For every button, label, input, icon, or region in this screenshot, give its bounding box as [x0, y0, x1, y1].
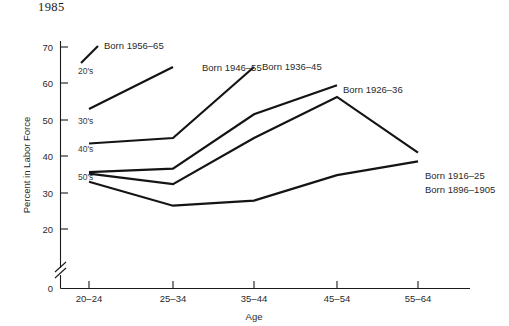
- x-axis-title: Age: [246, 311, 263, 322]
- y-tick-label: 50: [42, 115, 53, 126]
- series-line-2: [89, 67, 173, 109]
- series-label: Born 1936–45: [262, 61, 322, 72]
- series-label: Born 1916–25: [425, 170, 485, 181]
- series-label: Born 1956–65: [104, 40, 164, 51]
- y-axis-title: Percent in Labor Force: [21, 117, 32, 214]
- series-line-6: [89, 161, 418, 205]
- y-tick-label: 0: [48, 283, 53, 294]
- y-tick-label: 30: [42, 188, 53, 199]
- y-axis-ticks: [61, 47, 69, 229]
- decade-annotation: 40's: [78, 144, 93, 154]
- x-tick-label: 25–34: [160, 293, 186, 304]
- y-tick-label: 60: [42, 78, 53, 89]
- series-label: Born 1946–55: [202, 62, 262, 73]
- chart-figure: 1985 70 60 50 40 30 20 0: [0, 0, 509, 326]
- series-label: Born 1896–1905: [425, 184, 495, 195]
- y-axis-tick-labels: 70 60 50 40 30 20 0: [42, 42, 53, 295]
- x-tick-label: 55–64: [405, 293, 431, 304]
- y-tick-label: 40: [42, 151, 53, 162]
- series-label: Born 1926–36: [343, 84, 403, 95]
- x-tick-label: 20–24: [76, 293, 102, 304]
- y-tick-label: 20: [42, 224, 53, 235]
- x-axis-tick-labels: 20–24 25–34 35–44 45–54 55–64: [76, 293, 431, 304]
- y-tick-label: 70: [42, 42, 53, 53]
- series-line-1: [81, 46, 98, 63]
- series-line-4: [89, 85, 337, 172]
- series-label-group: Born 1956–65Born 1946–55Born 1936–45Born…: [104, 40, 495, 195]
- x-axis-ticks: [89, 281, 418, 289]
- x-tick-label: 45–54: [324, 293, 350, 304]
- decade-annotation: 20's: [78, 66, 93, 76]
- decade-annotation: 30's: [78, 116, 93, 126]
- x-tick-label: 35–44: [241, 293, 267, 304]
- line-chart-canvas: 70 60 50 40 30 20 0 20–24 25–34 35–44 45…: [0, 0, 509, 326]
- decade-annotation: 50's: [78, 172, 93, 182]
- decade-annotation-group: 20's30's40's50's: [78, 66, 93, 182]
